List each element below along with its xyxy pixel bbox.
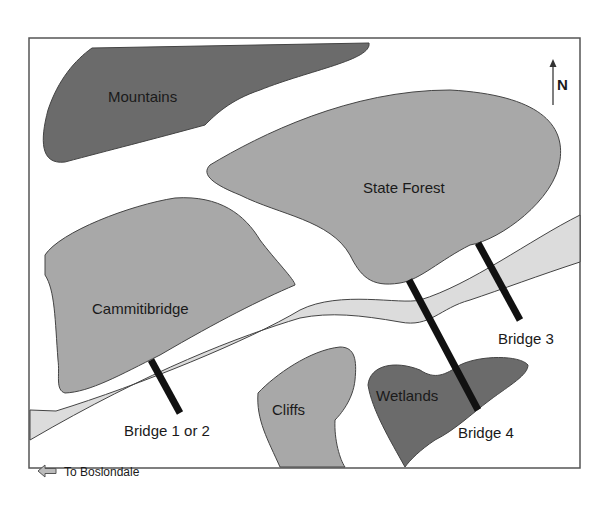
label-bridge-1-or-2: Bridge 1 or 2 xyxy=(124,422,210,439)
label-mountains: Mountains xyxy=(108,88,177,105)
label-wetlands: Wetlands xyxy=(376,387,438,404)
direction-label: To Boslondale xyxy=(64,465,140,479)
label-bridge-4: Bridge 4 xyxy=(458,424,514,441)
label-cliffs: Cliffs xyxy=(272,401,305,418)
label-state-forest: State Forest xyxy=(363,179,446,196)
map-canvas: Mountains State Forest Cammitibridge Cli… xyxy=(0,0,603,509)
label-cammitibridge: Cammitibridge xyxy=(92,300,189,317)
label-bridge-3: Bridge 3 xyxy=(498,330,554,347)
north-label: N xyxy=(557,76,568,93)
